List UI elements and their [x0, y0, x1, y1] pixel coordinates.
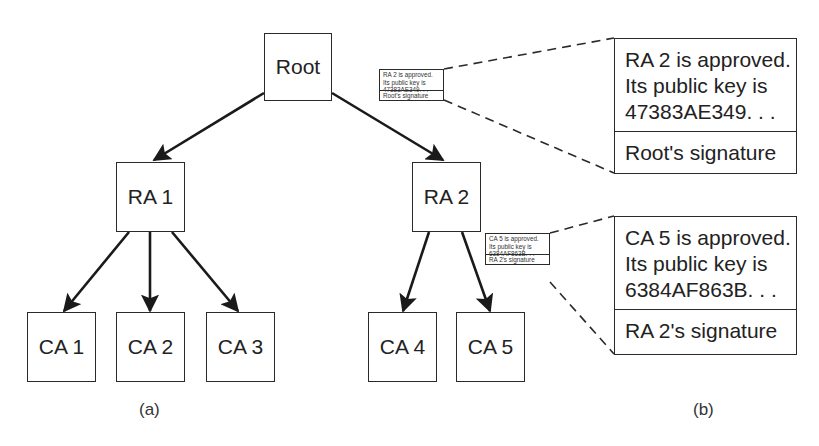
zoom-line-cert1-top	[444, 38, 614, 69]
node-ra1: RA 1	[116, 162, 185, 232]
certificate-signature: RA 2's signature	[615, 310, 796, 352]
certificate-line: 6384AF863B. . .	[625, 277, 786, 303]
small-certificate-ca5: CA 5 is approved. Its public key is 6384…	[485, 233, 550, 265]
certificate-signature: Root's signature	[615, 132, 796, 174]
edge-root-ra1	[154, 93, 264, 160]
certificate-line: 47383AE349. . .	[625, 99, 786, 125]
certificate-signature: RA 2's signature	[486, 255, 549, 265]
certificate-line: Its public key is	[625, 73, 786, 99]
edge-ra2-ca4	[403, 232, 429, 311]
node-ca4-label: CA 4	[380, 335, 426, 359]
certificate-ca5-enlarged: CA 5 is approved. Its public key is 6384…	[614, 216, 797, 355]
node-ca1: CA 1	[27, 312, 96, 382]
certificate-body: CA 5 is approved. Its public key is 6384…	[615, 217, 796, 310]
zoom-line-cert2-top	[550, 216, 614, 233]
certificate-line: RA 2 is approved.	[383, 71, 440, 79]
caption-b: (b)	[693, 400, 714, 420]
node-ca3-label: CA 3	[218, 335, 264, 359]
node-root: Root	[264, 33, 332, 101]
certificate-signature: Root's signature	[380, 91, 443, 101]
edge-ra1-ca3	[172, 232, 238, 311]
small-certificate-ra2: RA 2 is approved. Its public key is 4738…	[379, 69, 444, 101]
node-root-label: Root	[276, 55, 320, 79]
node-ca3: CA 3	[206, 312, 275, 382]
node-ca5-label: CA 5	[468, 335, 514, 359]
certificate-body: RA 2 is approved. Its public key is 4738…	[380, 70, 443, 91]
certificate-ra2-enlarged: RA 2 is approved. Its public key is 4738…	[614, 38, 797, 174]
node-ca1-label: CA 1	[39, 335, 85, 359]
node-ra1-label: RA 1	[128, 185, 174, 209]
certificate-line: RA 2 is approved.	[625, 47, 786, 73]
certificate-body: CA 5 is approved. Its public key is 6384…	[486, 234, 549, 255]
certificate-line: CA 5 is approved.	[625, 225, 786, 251]
edge-root-ra2	[332, 93, 443, 160]
edge-ra1-ca1	[64, 232, 129, 311]
certificate-line: CA 5 is approved.	[489, 235, 546, 243]
certificate-line: Its public key is	[625, 251, 786, 277]
node-ca4: CA 4	[368, 312, 437, 382]
node-ca2-label: CA 2	[128, 335, 174, 359]
node-ra2: RA 2	[412, 162, 481, 232]
certificate-body: RA 2 is approved. Its public key is 4738…	[615, 39, 796, 132]
certificate-line: Its public key is	[489, 243, 546, 251]
zoom-line-cert2-bottom	[550, 282, 614, 354]
node-ca2: CA 2	[116, 312, 185, 382]
node-ra2-label: RA 2	[424, 185, 470, 209]
certificate-line: Its public key is	[383, 79, 440, 87]
caption-a: (a)	[139, 400, 160, 420]
node-ca5: CA 5	[456, 312, 525, 382]
